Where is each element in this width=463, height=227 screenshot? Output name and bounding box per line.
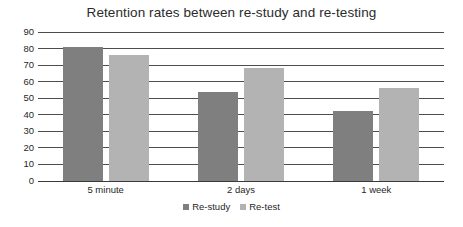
- y-axis-tick-label: 80: [4, 44, 34, 54]
- bar: [333, 111, 373, 181]
- y-axis-tick-label: 0: [4, 176, 34, 186]
- x-axis-category-label: 2 days: [173, 184, 308, 195]
- y-axis-tick-label: 20: [4, 143, 34, 153]
- chart-legend: Re-studyRe-test: [0, 201, 463, 212]
- y-axis-tick-label: 70: [4, 60, 34, 70]
- bar: [244, 68, 284, 181]
- x-axis-category-labels: 5 minute2 days1 week: [38, 184, 444, 198]
- chart-title: Retention rates between re-study and re-…: [0, 5, 463, 20]
- gridline: [38, 32, 444, 33]
- bar: [379, 88, 419, 181]
- legend-swatch-icon: [183, 204, 189, 210]
- y-axis-tick-label: 10: [4, 159, 34, 169]
- y-axis-tick-labels: 0102030405060708090: [0, 32, 34, 181]
- legend-swatch-icon: [240, 204, 246, 210]
- y-axis-tick-label: 60: [4, 77, 34, 87]
- y-axis-tick-label: 30: [4, 126, 34, 136]
- legend-item[interactable]: Re-study: [183, 201, 230, 212]
- bar-chart: Retention rates between re-study and re-…: [0, 0, 463, 227]
- y-axis-tick-label: 90: [4, 27, 34, 37]
- y-axis-tick-label: 50: [4, 93, 34, 103]
- y-axis-tick-label: 40: [4, 110, 34, 120]
- bar: [198, 92, 238, 181]
- bar: [63, 47, 103, 181]
- plot-area: [38, 32, 444, 181]
- legend-label: Re-test: [249, 201, 280, 212]
- legend-item[interactable]: Re-test: [240, 201, 280, 212]
- x-axis-category-label: 5 minute: [38, 184, 173, 195]
- bar: [109, 55, 149, 181]
- legend-label: Re-study: [192, 201, 230, 212]
- x-axis-category-label: 1 week: [309, 184, 444, 195]
